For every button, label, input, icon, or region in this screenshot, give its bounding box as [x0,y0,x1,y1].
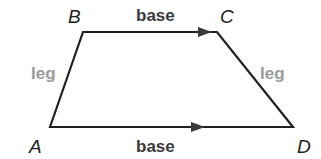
bottom-base-label: base [136,137,175,156]
trapezoid-shape [50,32,293,127]
parallel-arrow-top-icon [198,27,212,37]
vertex-label-d: D [297,136,311,157]
left-leg-label: leg [31,64,56,83]
vertex-label-a: A [28,136,42,157]
vertex-label-c: C [220,6,234,27]
parallel-arrow-bottom-icon [191,122,205,132]
top-base-label: base [136,6,175,25]
trapezoid-diagram: B C A D base base leg leg [0,0,321,159]
right-leg-label: leg [260,64,285,83]
vertex-label-b: B [68,6,81,27]
